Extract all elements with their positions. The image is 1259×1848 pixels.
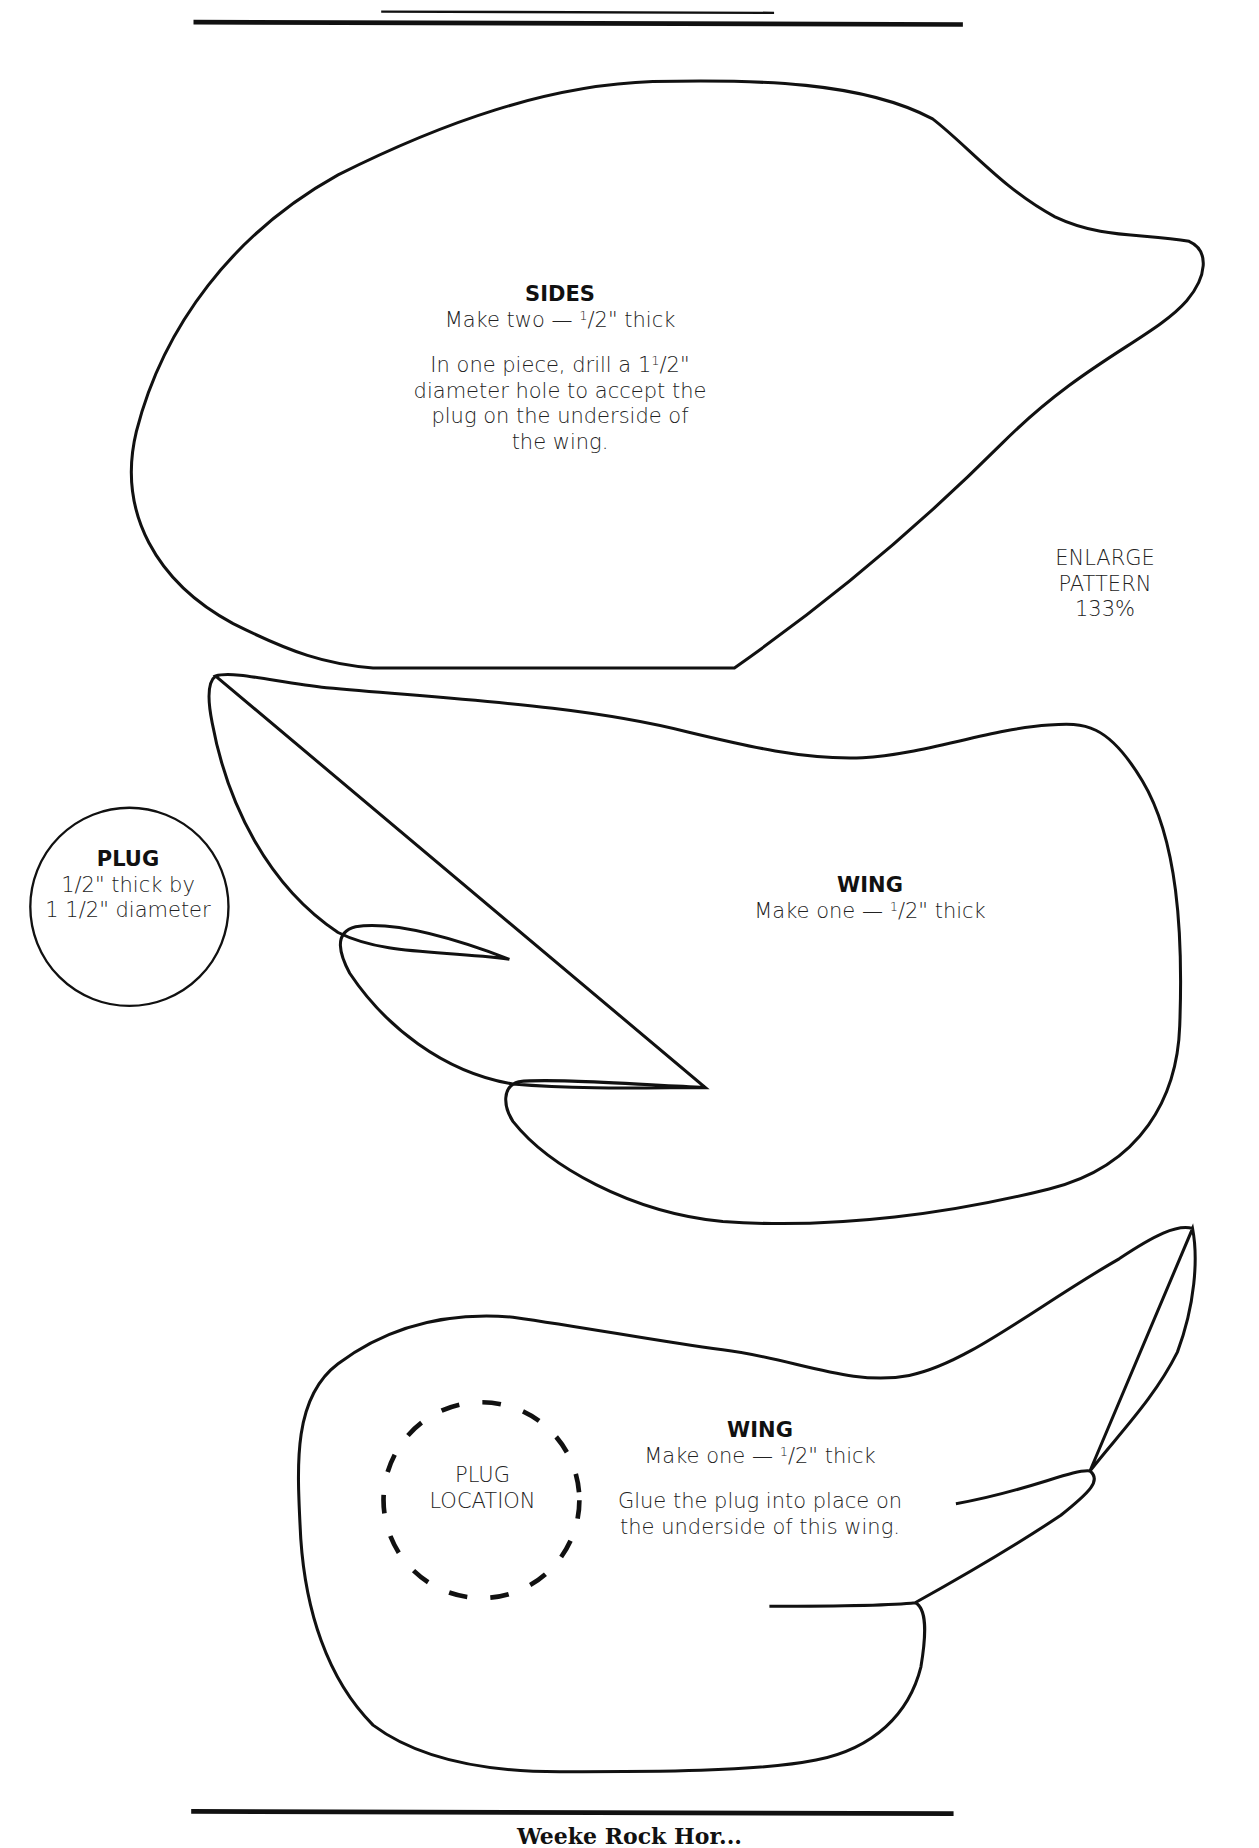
footer-thick-rule (191, 1811, 953, 1813)
header-thick-rule (194, 22, 963, 24)
wing-upper-title: WING (720, 873, 1020, 899)
wing-upper-quantity-text: Make one — (754, 899, 889, 923)
sides-instruction-text: In one piece, drill a 1 (430, 353, 651, 377)
plug-thickness: 1/2" thick by (23, 873, 233, 899)
wing-upper-thickness: /2" thick (898, 899, 986, 923)
footer-text: Weeke Rock Hor... (0, 1823, 1259, 1848)
wing-lower-label: WING Make one — 1/2" thick Glue the plug… (600, 1418, 920, 1540)
sides-label: SIDES Make two — 1/2" thick In one piece… (380, 282, 740, 456)
wing-lower-instruction-line-1: Glue the plug into place on (600, 1489, 920, 1515)
wing-lower-thickness: /2" thick (788, 1444, 876, 1468)
wing-lower-instruction-line-2: the underside of this wing. (600, 1515, 920, 1541)
enlarge-note: ENLARGE PATTERN 133% (1035, 546, 1175, 623)
wing-upper-label: WING Make one — 1/2" thick (720, 873, 1020, 924)
plug-location-label: PLUG LOCATION (400, 1463, 565, 1514)
enlarge-line-2: PATTERN (1035, 572, 1175, 598)
header-thin-rule (381, 12, 774, 13)
sides-title: SIDES (380, 282, 740, 308)
wing-lower-quantity-text: Make one — (644, 1444, 779, 1468)
plug-label: PLUG 1/2" thick by 1 1/2" diameter (23, 847, 233, 924)
sides-instruction-line-3: plug on the underside of (380, 404, 740, 430)
plug-location-line-2: LOCATION (400, 1489, 565, 1515)
hole-size: /2" (660, 353, 690, 377)
plug-diameter: 1 1/2" diameter (23, 898, 233, 924)
enlarge-line-3: 133% (1035, 597, 1175, 623)
wing-upper-pattern-outline (209, 675, 1181, 1224)
sides-instruction-line-1: In one piece, drill a 11/2" (380, 353, 740, 379)
wing-lower-title: WING (600, 1418, 920, 1444)
fraction-numerator: 1 (890, 899, 898, 914)
sides-quantity: Make two — 1/2" thick (380, 308, 740, 334)
enlarge-line-1: ENLARGE (1035, 546, 1175, 572)
plug-title: PLUG (23, 847, 233, 873)
sides-quantity-text: Make two — (445, 308, 580, 332)
wing-lower-quantity: Make one — 1/2" thick (600, 1444, 920, 1470)
wing-upper-quantity: Make one — 1/2" thick (720, 899, 1020, 925)
plug-location-line-1: PLUG (400, 1463, 565, 1489)
fraction-numerator: 1 (579, 308, 587, 323)
fraction-numerator: 1 (780, 1444, 788, 1459)
sides-instruction-line-4: the wing. (380, 430, 740, 456)
fraction-numerator: 1 (651, 353, 659, 368)
sides-thickness: /2" thick (588, 308, 676, 332)
sides-instruction-line-2: diameter hole to accept the (380, 379, 740, 405)
